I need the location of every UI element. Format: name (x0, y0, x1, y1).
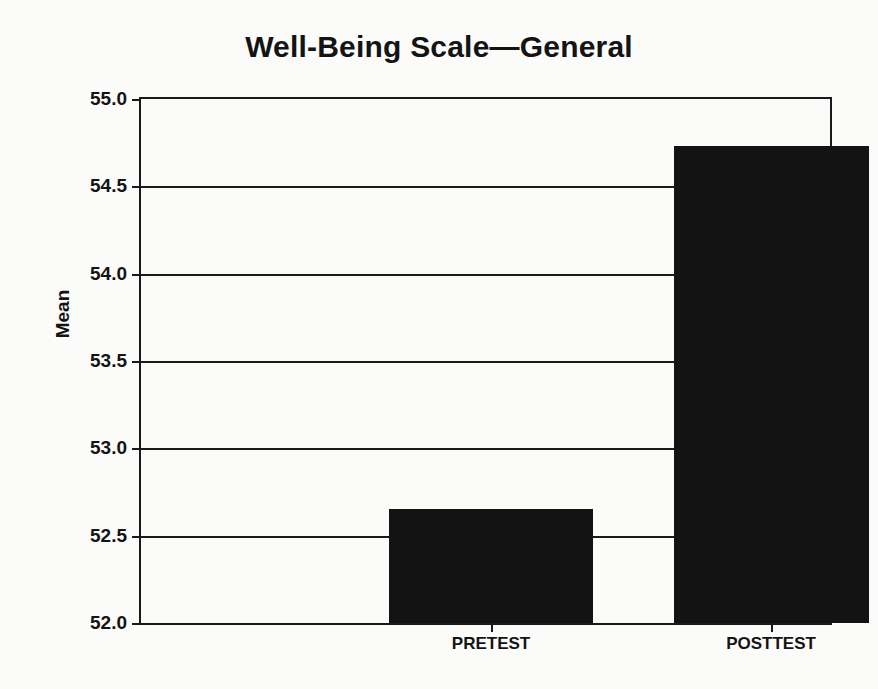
x-tick-label: PRETEST (452, 634, 530, 654)
chart-title: Well-Being Scale—General (0, 30, 878, 64)
x-tick-label: POSTTEST (726, 634, 816, 654)
y-tick-mark (132, 448, 141, 450)
bar-posttest (674, 146, 869, 623)
bar-pretest (389, 509, 593, 623)
y-tick-label: 52.0 (90, 612, 127, 634)
y-tick-label: 52.5 (90, 525, 127, 547)
x-tick-mark (491, 623, 493, 632)
y-tick-mark (132, 186, 141, 188)
y-tick-label: 53.5 (90, 350, 127, 372)
y-tick-mark (132, 99, 141, 101)
y-tick-mark (132, 623, 141, 625)
y-tick-mark (132, 274, 141, 276)
y-tick-mark (132, 361, 141, 363)
y-tick-label: 54.5 (90, 175, 127, 197)
y-tick-label: 55.0 (90, 88, 127, 110)
y-tick-label: 54.0 (90, 263, 127, 285)
y-axis-title: Mean (52, 269, 74, 359)
x-tick-mark (771, 623, 773, 632)
plot-area: 52.052.553.053.554.054.555.0PRETESTPOSTT… (139, 97, 832, 625)
chart-figure: Well-Being Scale—General Mean 52.052.553… (0, 0, 878, 689)
y-tick-mark (132, 536, 141, 538)
y-tick-label: 53.0 (90, 437, 127, 459)
